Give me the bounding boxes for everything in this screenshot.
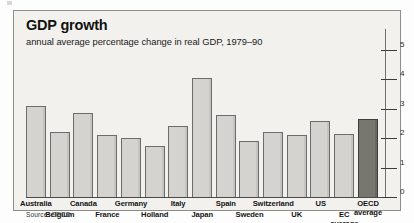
screenshot-root: GDP growth annual average percentage cha… — [0, 0, 414, 223]
source-note: Source: OECD — [26, 211, 71, 218]
x-axis-label-line: Germany — [115, 199, 147, 208]
x-axis-label-line: Japan — [192, 210, 213, 219]
bar-column — [239, 57, 259, 197]
x-axis-label: France — [95, 210, 119, 219]
x-axis-label: Holland — [141, 210, 168, 219]
bar-column — [358, 57, 378, 197]
y-tick-label: 1 — [400, 159, 404, 167]
y-tick-mark — [381, 168, 397, 169]
bar-column — [97, 57, 117, 197]
bar — [239, 141, 259, 197]
chart-panel: GDP growth annual average percentage cha… — [13, 10, 401, 211]
bar-column — [263, 57, 283, 197]
x-axis-label-line: UK — [291, 210, 302, 219]
bar-column — [168, 57, 188, 197]
y-tick-label: 5 — [400, 41, 404, 49]
bar-column — [121, 57, 141, 197]
y-tick-label: 4 — [400, 70, 404, 78]
x-axis-label: Canada — [70, 199, 97, 208]
x-axis-label: OECDaverage — [354, 199, 382, 217]
y-tick-label: 3 — [400, 100, 404, 108]
bar — [216, 115, 236, 197]
y-tick-mark — [381, 109, 397, 110]
bar-column — [216, 57, 236, 197]
y-tick-mark — [381, 50, 397, 51]
y-axis-line — [385, 29, 386, 198]
plot-area — [26, 57, 378, 197]
x-axis-label-line: OECD — [357, 199, 379, 208]
x-axis-label: Sweden — [235, 210, 263, 219]
bar-column — [287, 57, 307, 197]
bar-column — [145, 57, 165, 197]
bar — [334, 134, 354, 197]
x-axis-label-line: Holland — [141, 210, 168, 219]
chart-subtitle: annual average percentage change in real… — [26, 36, 262, 47]
scan-artifact — [7, 1, 12, 5]
x-axis-label-line: average — [354, 208, 382, 217]
x-axis-label-line: Sweden — [235, 210, 263, 219]
y-tick-label: 2 — [400, 129, 404, 137]
x-axis-label: Switzerland — [253, 199, 294, 208]
x-axis-label: Australia — [20, 199, 52, 208]
y-tick-mark — [381, 79, 397, 80]
bar — [263, 132, 283, 197]
bar — [26, 106, 46, 197]
x-axis-labels: AustraliaBelgiumCanadaFranceGermanyHolla… — [26, 199, 378, 223]
x-axis-label: US — [316, 199, 326, 208]
x-axis-label-line: Spain — [216, 199, 236, 208]
y-tick-label: 0 — [400, 188, 404, 196]
y-tick-mark — [381, 197, 397, 198]
bar-column — [334, 57, 354, 197]
bar — [145, 146, 165, 197]
bar-column — [26, 57, 46, 197]
bar — [287, 135, 307, 197]
x-axis-label: Germany — [115, 199, 147, 208]
x-axis-label: Italy — [171, 199, 186, 208]
x-axis-label-line: Canada — [70, 199, 97, 208]
bar-column — [73, 57, 93, 197]
x-axis-label-line: Switzerland — [253, 199, 294, 208]
bar — [168, 126, 188, 197]
x-axis-label-line: US — [316, 199, 326, 208]
bar — [192, 78, 212, 197]
bar — [358, 119, 378, 197]
bar-column — [310, 57, 330, 197]
x-axis-label: Japan — [192, 210, 213, 219]
bar — [310, 121, 330, 197]
bar-column — [50, 57, 70, 197]
x-axis-label: UK — [291, 210, 302, 219]
bar — [97, 135, 117, 197]
x-axis-label-line: Australia — [20, 199, 52, 208]
y-tick-mark — [381, 138, 397, 139]
bar-column — [192, 57, 212, 197]
x-axis-label-line: Italy — [171, 199, 186, 208]
bar — [121, 138, 141, 197]
x-axis-baseline — [26, 197, 397, 198]
chart-title: GDP growth — [26, 17, 108, 33]
bar — [50, 132, 70, 197]
x-axis-label: Spain — [216, 199, 236, 208]
bar-series — [26, 57, 378, 197]
x-axis-label-line: average — [330, 219, 358, 223]
x-axis-label-line: France — [95, 210, 119, 219]
x-axis-label-line: EC — [339, 210, 349, 219]
bar — [73, 113, 93, 197]
